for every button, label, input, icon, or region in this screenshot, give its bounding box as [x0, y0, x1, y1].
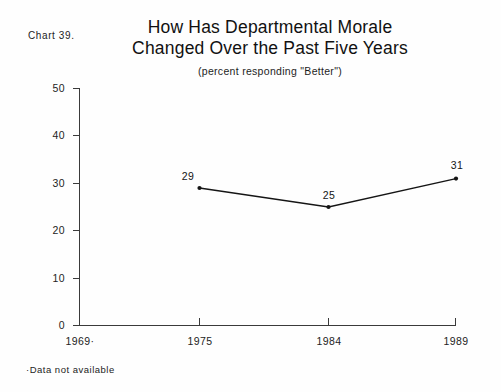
- data-value-label-1984: 25: [309, 189, 349, 201]
- plot-area: 50 40 30 20 10 0 1969· 1975 1984 1989 29…: [0, 0, 501, 392]
- x-axis-ticks: [200, 318, 456, 326]
- chart-svg: [0, 0, 501, 392]
- y-tick-label-20: 20: [20, 224, 65, 236]
- y-tick-label-10: 10: [20, 272, 65, 284]
- data-value-label-1989: 31: [437, 159, 477, 171]
- x-tick-label-1984: 1984: [299, 335, 359, 347]
- data-point-1975: [197, 186, 201, 190]
- y-tick-label-50: 50: [20, 82, 65, 94]
- x-tick-label-1989: 1989: [426, 335, 486, 347]
- y-axis-ticks: [73, 89, 80, 326]
- chart-page: Chart 39. How Has Departmental Morale Ch…: [0, 0, 501, 392]
- x-tick-label-1969: 1969·: [50, 335, 110, 347]
- data-point-1984: [326, 205, 330, 209]
- data-point-1989: [454, 177, 458, 181]
- y-tick-label-30: 30: [20, 177, 65, 189]
- y-tick-label-40: 40: [20, 129, 65, 141]
- y-tick-label-0: 0: [20, 319, 65, 331]
- data-value-label-1975: 29: [168, 170, 208, 182]
- x-tick-label-1975: 1975: [170, 335, 230, 347]
- footnote-data-not-available: ·Data not available: [26, 364, 115, 375]
